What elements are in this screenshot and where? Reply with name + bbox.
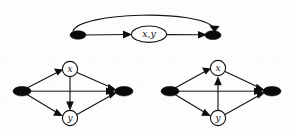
node-bl-sink: [115, 86, 133, 96]
arrowhead-top-source-to-xy: [123, 31, 132, 39]
edge-bl-source-to-x: [27, 73, 57, 89]
edge-br-x-to-sink: [225, 72, 258, 88]
node-br-y-label: y: [214, 113, 221, 123]
node-bl-y-label: y: [66, 113, 73, 123]
node-br-source: [161, 86, 179, 96]
arrowhead-bl-source-to-y: [53, 109, 63, 116]
node-top-xy-label: x,y: [142, 28, 156, 39]
node-br-sink: [263, 86, 281, 96]
arrowhead-br-source-to-x: [202, 67, 211, 74]
node-bl-source: [13, 86, 31, 96]
bottom-right-graph-panel: x y: [161, 60, 281, 125]
edge-bl-x-to-sink: [77, 73, 110, 88]
node-br-x-label: x: [215, 63, 220, 73]
top-graph-panel: x,y: [70, 15, 221, 42]
bottom-left-graph-panel: x y: [13, 61, 133, 125]
node-top-sink: [205, 31, 221, 40]
edge-br-y-to-sink: [225, 96, 258, 115]
edge-top-source-to-xy: [86, 35, 126, 36]
arrowhead-br-y-to-x-up: [214, 76, 222, 85]
edge-br-source-to-x: [175, 72, 205, 89]
arrowhead-bl-x-to-y-down: [66, 101, 74, 110]
graph-diagram-svg: x,y x: [0, 0, 296, 134]
edge-br-source-to-y: [175, 95, 204, 113]
edge-bl-source-to-y: [27, 95, 56, 113]
node-top-source: [70, 31, 86, 39]
figure-canvas: x,y x: [0, 0, 296, 134]
node-bl-x-label: x: [67, 64, 72, 74]
arrowhead-br-source-to-y: [201, 109, 211, 116]
edge-bl-y-to-sink: [77, 96, 110, 115]
arrowhead-bl-source-to-x: [54, 68, 63, 75]
